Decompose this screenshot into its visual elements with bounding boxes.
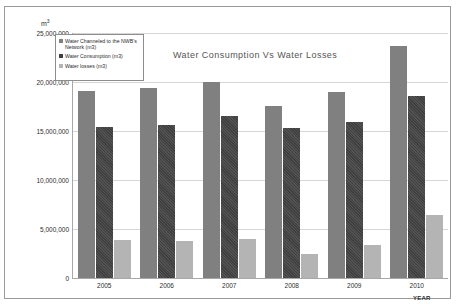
- bar: [346, 122, 363, 278]
- chart-legend: Water Channeled to the NWB's Network (m3…: [55, 34, 144, 81]
- bar: [203, 82, 220, 278]
- legend-item[interactable]: Water Channeled to the NWB's Network (m3…: [59, 38, 140, 50]
- bar: [96, 127, 113, 278]
- legend-swatch-icon: [59, 64, 63, 68]
- bar: [283, 128, 300, 278]
- y-axis-tick-label: 10,000,000: [7, 177, 69, 184]
- y-axis-tick-label: 15,000,000: [7, 128, 69, 135]
- x-axis-tick-label: 2006: [136, 282, 199, 294]
- legend-item[interactable]: Water Consumption (m3): [59, 53, 140, 59]
- bar-group: [386, 33, 449, 278]
- bar: [114, 240, 131, 278]
- bar: [221, 116, 238, 278]
- gridline: [73, 278, 448, 279]
- bar: [390, 46, 407, 278]
- bar: [158, 125, 175, 278]
- bar: [426, 215, 443, 278]
- x-axis-tick-label: 2008: [261, 282, 324, 294]
- legend-label: Water Channeled to the NWB's Network (m3…: [65, 38, 140, 50]
- legend-swatch-icon: [59, 39, 63, 43]
- bar: [328, 92, 345, 278]
- chart-screenshot: m3 25,000,00020,000,00015,000,00010,000,…: [0, 0, 457, 306]
- bar-group: [323, 33, 386, 278]
- x-axis-tick-label: 2005: [73, 282, 136, 294]
- bar: [265, 106, 282, 278]
- y-axis-unit-superscript: 3: [47, 18, 50, 24]
- y-axis-unit-label: m3: [41, 18, 50, 27]
- bar: [239, 239, 256, 278]
- bar: [140, 88, 157, 278]
- x-axis-tick-label: 2007: [198, 282, 261, 294]
- x-axis-tick-label: 2010: [386, 282, 449, 294]
- bar-group: [261, 33, 324, 278]
- legend-item[interactable]: Water losses (m3): [59, 63, 140, 69]
- y-axis-tick-label: 0: [7, 275, 69, 282]
- bar: [408, 96, 425, 278]
- x-axis-title: YEAR: [413, 295, 430, 301]
- chart-title: Water Consumption Vs Water Losses: [173, 50, 337, 60]
- legend-swatch-icon: [59, 54, 63, 58]
- bar: [301, 254, 318, 279]
- legend-label: Water losses (m3): [65, 63, 107, 69]
- bar: [78, 91, 95, 278]
- bar-group: [136, 33, 199, 278]
- y-axis-tick-label: 5,000,000: [7, 226, 69, 233]
- x-axis-tick-labels: 200520062007200820092010: [73, 282, 448, 294]
- x-axis-tick-label: 2009: [323, 282, 386, 294]
- bar: [176, 241, 193, 278]
- chart-frame: m3 25,000,00020,000,00015,000,00010,000,…: [4, 6, 451, 299]
- bar-group: [198, 33, 261, 278]
- bar: [364, 245, 381, 278]
- legend-label: Water Consumption (m3): [65, 53, 123, 59]
